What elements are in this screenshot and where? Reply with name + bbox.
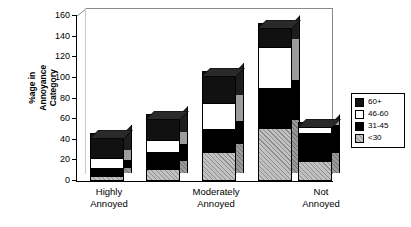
bar-side-segment (124, 168, 132, 173)
bar-column (90, 133, 124, 181)
legend-swatch (355, 122, 364, 131)
legend-label: <30 (368, 134, 382, 142)
bar-segment (146, 152, 180, 169)
x-axis-group-label: HighlyAnnoyed (64, 186, 154, 210)
legend-swatch (355, 98, 364, 107)
x-axis-group-label: NotAnnoyed (276, 186, 366, 210)
bar-top-face (90, 125, 132, 133)
y-axis-tick-label: 160 (55, 11, 70, 20)
legend-item[interactable]: 60+ (355, 96, 401, 108)
legend-item[interactable]: 31-45 (355, 120, 401, 132)
legend-label: 31-45 (368, 122, 388, 130)
legend-swatch (355, 110, 364, 119)
bar-column (298, 122, 332, 181)
bar-side-segment (236, 144, 244, 173)
bars-area (76, 16, 341, 181)
bar-side-segment (124, 150, 132, 159)
y-axis-tick-label: 120 (55, 52, 70, 61)
bar-segment (90, 176, 124, 181)
y-axis-tick-label: 60 (60, 114, 70, 123)
legend-swatch (355, 134, 364, 143)
bar-segment (298, 161, 332, 181)
bar-top-face (202, 63, 244, 71)
y-axis-tick-labels: 020406080100120140160 (44, 15, 70, 180)
bar-segment (298, 133, 332, 162)
y-axis-tick-label: 0 (65, 176, 70, 185)
y-axis-tick-label: 20 (60, 155, 70, 164)
bar-top-face (258, 15, 300, 23)
bar-segment (202, 103, 236, 130)
y-axis-tick-label: 100 (55, 72, 70, 81)
bar-segment (202, 129, 236, 152)
bar-side-segment (292, 39, 300, 80)
bar-segment (202, 152, 236, 181)
legend-label: 46-60 (368, 110, 388, 118)
legend-item[interactable]: 46-60 (355, 108, 401, 120)
y-axis-tick-label: 140 (55, 31, 70, 40)
x-axis-group-label-line: Annoyed (64, 198, 154, 210)
bar-side-segment (180, 144, 188, 161)
bar-segment (146, 169, 180, 181)
x-axis-group-label-line: Highly (64, 186, 154, 198)
x-axis-group-label-line: Annoyed (276, 198, 366, 210)
stacked-bar-chart: %age in Annoyance Category 0204060801001… (0, 0, 411, 227)
bar-side-segment (332, 125, 340, 154)
bar-segment (90, 158, 124, 167)
bar-segment (90, 168, 124, 176)
bar-side-face (236, 63, 244, 173)
bar-side-segment (124, 160, 132, 168)
legend-label: 60+ (368, 98, 382, 106)
bar-segment (258, 47, 292, 88)
x-axis-group-label-line: Not (276, 186, 366, 198)
bar-column (146, 114, 180, 181)
y-axis-tick-label: 40 (60, 134, 70, 143)
bar-segment (258, 88, 292, 128)
x-axis-group-label-line: Moderately (171, 186, 261, 198)
bar-side-segment (236, 121, 244, 144)
bar-segment (258, 128, 292, 181)
bar-side-segment (180, 161, 188, 173)
bar-segment (146, 140, 180, 152)
bar-side-segment (236, 95, 244, 122)
bar-side-segment (180, 132, 188, 144)
bar-top-face (146, 106, 188, 114)
legend-item[interactable]: <30 (355, 132, 401, 144)
y-axis-title-line-1: %age in (27, 65, 38, 111)
bar-top-face (298, 114, 340, 122)
bar-column (202, 71, 236, 181)
x-axis-group-label: ModeratelyAnnoyed (171, 186, 261, 210)
x-axis-labels: HighlyAnnoyedModeratelyAnnoyedNotAnnoyed (76, 186, 341, 220)
x-axis-group-label-line: Annoyed (171, 198, 261, 210)
bar-side-segment (332, 153, 340, 173)
x-axis-line (76, 181, 333, 182)
y-axis-tick-label: 80 (60, 93, 70, 102)
bar-column (258, 23, 292, 181)
legend: 60+46-6031-45<30 (351, 93, 405, 148)
